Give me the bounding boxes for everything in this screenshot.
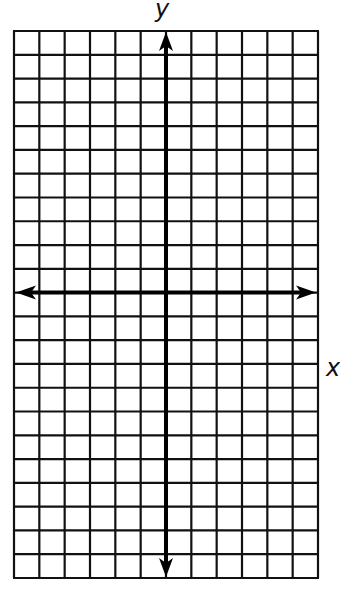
axes [16, 32, 316, 577]
x-axis-label: x [326, 356, 340, 380]
y-axis-label: y [155, 0, 169, 21]
